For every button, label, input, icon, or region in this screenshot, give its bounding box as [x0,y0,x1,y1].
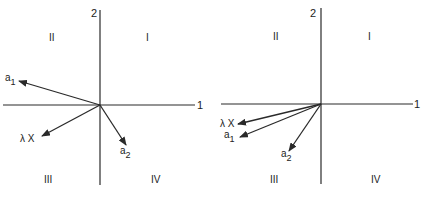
right-figure: 1 2 II I III IV λ X a1 a2 [220,7,420,185]
left-figure: 1 2 II I III IV a1 λ X a2 [3,7,203,185]
left-quadrant-I: I [146,32,149,43]
right-axis-1-label: 1 [414,98,420,110]
right-label-lambda-x: λ X [220,118,235,129]
left-label-a2: a2 [120,145,131,160]
left-quadrant-II: II [49,32,55,43]
left-quadrant-IV: IV [151,174,161,185]
left-axis-2-label: 2 [91,7,97,19]
left-label-a1: a1 [5,72,16,87]
right-quadrant-IV: IV [371,174,381,185]
left-axis-1-label: 1 [197,99,203,111]
left-quadrant-III: III [44,174,52,185]
right-quadrant-I: I [368,31,371,42]
left-vector-lambda-x [42,105,100,136]
right-axis-2-label: 2 [310,7,316,19]
right-label-a1: a1 [224,129,235,144]
vector-diagram-canvas: 1 2 II I III IV a1 λ X a2 1 2 II I III I… [0,0,422,198]
left-label-lambda-x: λ X [20,133,35,144]
left-vector-a1 [19,81,100,105]
right-quadrant-II: II [273,31,279,42]
right-quadrant-III: III [270,174,278,185]
left-vector-a2 [100,105,126,145]
